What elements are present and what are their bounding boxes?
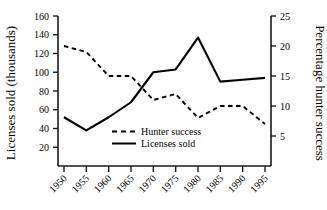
- y-axis-right-tick-label: 25: [280, 11, 290, 22]
- x-axis-tick-label: 1975: [159, 173, 181, 195]
- x-axis-tick-label: 1995: [248, 173, 270, 195]
- series-line-hunter-success: [64, 46, 265, 124]
- y-axis-left-tick-label: 140: [34, 29, 49, 40]
- chart-container: Licenses sold (thousands) Percentage hun…: [0, 0, 327, 210]
- y-axis-left-tick-label: 60: [39, 104, 49, 115]
- x-axis-tick-label: 1950: [47, 173, 69, 195]
- line-chart: Licenses sold (thousands) Percentage hun…: [0, 0, 327, 210]
- y-axis-left-tick-label: 40: [39, 123, 49, 134]
- series-layer: [64, 38, 265, 131]
- y-axis-left-tick-label: 80: [39, 86, 49, 97]
- y-axis-left-tick-label: 20: [39, 142, 49, 153]
- x-axis-ticks: 1950195519601965197019751980198519901995: [47, 166, 270, 195]
- x-axis-tick-label: 1955: [69, 173, 91, 195]
- series-line-licenses-sold: [64, 38, 265, 131]
- y-axis-right-tick-label: 5: [280, 131, 285, 142]
- chart-legend: Hunter success Licenses sold: [112, 126, 201, 149]
- y-axis-left-tick-label: 160: [34, 11, 49, 22]
- x-axis-tick-label: 1965: [114, 173, 136, 195]
- y-axis-right-ticks: 510152025: [271, 11, 290, 142]
- y-axis-left-tick-label: 100: [34, 67, 49, 78]
- y-axis-right-tick-label: 20: [280, 41, 290, 52]
- x-axis-tick-label: 1970: [136, 173, 158, 195]
- x-axis-tick-label: 1985: [203, 173, 225, 195]
- x-axis-tick-label: 1990: [226, 173, 248, 195]
- y-axis-right-tick-label: 10: [280, 101, 290, 112]
- y-axis-left-tick-label: 120: [34, 48, 49, 59]
- x-axis-tick-label: 1960: [92, 173, 114, 195]
- y-axis-right-tick-label: 15: [280, 71, 290, 82]
- legend-label-licenses-sold: Licenses sold: [141, 138, 195, 149]
- y-axis-left-ticks: 20406080100120140160: [34, 11, 58, 153]
- y-axis-right-title: Percentage hunter success: [313, 25, 327, 161]
- x-axis-tick-label: 1980: [181, 173, 203, 195]
- legend-label-hunter-success: Hunter success: [141, 126, 201, 137]
- y-axis-left-title: Licenses sold (thousands): [3, 26, 18, 160]
